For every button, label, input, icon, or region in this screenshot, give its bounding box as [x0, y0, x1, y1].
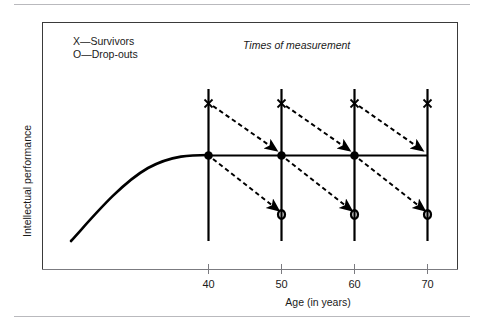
legend-dropouts-label: O—Drop-outs — [73, 48, 138, 60]
legend: X—Survivors O—Drop-outs — [73, 35, 138, 60]
observed-marker-50 — [277, 151, 286, 160]
observed-marker-60 — [350, 151, 359, 160]
legend-survivors-label: X—Survivors — [73, 35, 134, 47]
x-tick-label-40: 40 — [202, 278, 214, 290]
y-axis-label: Intellectual performance — [21, 125, 33, 237]
observed-marker-40 — [204, 151, 213, 160]
x-axis-label: Age (in years) — [285, 296, 350, 308]
intellectual-performance-chart: X—Survivors O—Drop-outs Times of measure… — [0, 0, 484, 333]
x-tick-label-50: 50 — [275, 278, 287, 290]
x-tick-label-70: 70 — [421, 278, 433, 290]
x-tick-label-60: 60 — [348, 278, 360, 290]
times-of-measurement-label: Times of measurement — [243, 39, 351, 51]
x-tick-labels: 40 50 60 70 — [202, 278, 433, 290]
